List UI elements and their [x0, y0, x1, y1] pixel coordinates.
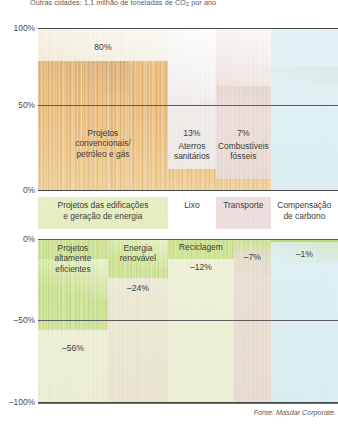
upper-value-label-2: 7% — [216, 128, 271, 138]
axis-tick-0-upper: 0% — [23, 185, 35, 195]
lower-value-label-1: –24% — [108, 283, 168, 293]
bar-projetos-convencionais — [38, 61, 168, 190]
category-label-1: Lixo — [184, 197, 199, 211]
lower-value-label-3: –7% — [234, 252, 271, 262]
category-label-3: Compensação de carbono — [277, 197, 331, 221]
paper-texture — [38, 61, 168, 190]
axis-tick-minus-100: –100% — [9, 397, 35, 407]
column-wash — [168, 28, 216, 190]
upper-column-compensacao-de-carbono — [271, 28, 338, 190]
lower-panel: Projetos altamente eficientes –56% Energ… — [38, 239, 338, 402]
bar-transporte — [234, 239, 271, 250]
column-wash — [216, 28, 271, 190]
upper-column-aterros-sanitarios: 13% Aterros sanitários — [168, 28, 216, 190]
upper-value-label-0: 80% — [38, 42, 168, 52]
axis-tick-50: 50% — [18, 100, 35, 110]
category-transporte: Transporte — [216, 197, 271, 229]
lower-value-label-4: –1% — [271, 249, 338, 259]
paper-texture-2 — [38, 61, 168, 190]
category-band: Projetos das edificações e geração de en… — [38, 197, 338, 229]
category-lixo: Lixo — [168, 197, 216, 229]
upper-name-label-1: Aterros sanitários — [168, 141, 216, 162]
lower-value-label-2: –12% — [168, 262, 234, 272]
chart-root: Outras cidades: 1,1 milhão de toneladas … — [0, 0, 338, 425]
caption-text: Outras cidades: 1,1 milhão de toneladas … — [30, 0, 216, 7]
bar-combustiveis-fosseis — [216, 179, 271, 190]
paper-texture — [168, 169, 216, 190]
upper-column-projetos-convencionais: 80% Projetos convencionais/ petróleo e g… — [38, 28, 168, 190]
lower-name-label-2: Reciclagem — [168, 242, 234, 252]
category-label-0: Projetos das edificações e geração de en… — [58, 197, 149, 221]
lower-name-label-1: Energia renovável — [108, 243, 168, 264]
lower-value-label-0: –56% — [38, 343, 108, 353]
category-projetos-edificacoes: Projetos das edificações e geração de en… — [38, 197, 168, 229]
chart-caption: Outras cidades: 1,1 milhão de toneladas … — [30, 0, 330, 7]
axis-tick-0-lower: 0% — [23, 234, 35, 244]
upper-value-label-1: 13% — [168, 128, 216, 138]
footer-rule — [38, 403, 338, 404]
axis-tick-100: 100% — [14, 23, 35, 33]
column-wash — [271, 28, 338, 190]
upper-panel: 80% Projetos convencionais/ petróleo e g… — [38, 28, 338, 190]
upper-name-label-2: Combustíveis fósseis — [216, 141, 271, 162]
paper-texture — [234, 239, 271, 250]
source-note: Fonte: Masdar Corporate. — [254, 408, 336, 417]
category-label-2: Transporte — [223, 197, 263, 211]
gridline-100 — [38, 28, 338, 29]
lower-name-label-0: Projetos altamente eficientes — [38, 243, 108, 274]
bar-aterros-sanitarios — [168, 169, 216, 190]
upper-column-combustiveis-fosseis: 7% Combustíveis fósseis — [216, 28, 271, 190]
upper-name-label-0: Projetos convencionais/ petróleo e gás — [38, 128, 168, 159]
gridline-50 — [38, 105, 338, 106]
category-compensacao-carbono: Compensação de carbono — [271, 197, 338, 229]
paper-texture — [216, 179, 271, 190]
gridline-0-upper — [38, 190, 338, 191]
upper-columns: 80% Projetos convencionais/ petróleo e g… — [38, 28, 338, 190]
gridline-0-lower — [38, 239, 338, 240]
gridline-minus-50 — [38, 320, 338, 321]
axis-tick-minus-50: –50% — [14, 315, 35, 325]
